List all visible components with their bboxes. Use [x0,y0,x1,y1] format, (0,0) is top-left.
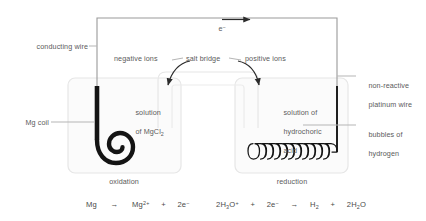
ox-product2-charge: − [186,200,189,206]
label-oxidation: oxidation [84,177,164,187]
red-plus2: + [330,200,335,209]
label-conducting-wire: conducting wire [4,42,88,52]
label-positive-ions: positive ions [245,54,286,64]
leader-salt-bridge-left [172,58,183,60]
red-r1-coeff: 2H [216,200,226,209]
red-r2-charge: − [276,200,279,206]
red-p2-coeff: 2H [347,200,357,209]
salt-bridge-tube-inner [172,85,244,128]
equation-oxidation: Mg → Mg2+ + 2e− [86,200,190,209]
label-mg-coil: Mg coil [4,118,49,128]
ox-product1: Mg [132,200,143,209]
electron-charge: − [223,24,226,30]
ox-arrow: → [111,200,119,209]
red-p2-element: O [360,200,366,209]
label-non-reactive-platinum-wire: non-reactive platinum wire [360,71,412,119]
non-reactive-line2: platinum wire [368,100,412,109]
label-bubbles-of-hydrogen: bubbles of hydrogen [360,120,403,168]
red-plus1: + [250,200,255,209]
leader-salt-bridge-right [229,58,241,60]
solution-left-line1: solution [135,108,161,117]
label-solution-left: solution of MgCl2 [127,98,164,148]
solution-left-line2: of MgCl [135,127,160,136]
solution-left-subscript: 2 [161,130,164,136]
label-solution-right: solution of hydrochoric acid [275,98,322,165]
red-arrow: → [291,200,299,209]
bubbles-line1: bubbles of [368,130,402,139]
red-r1-charge: + [235,200,238,206]
red-p1-subscript: 2 [316,204,319,210]
ox-product1-charge: 2+ [143,200,150,206]
label-electron: e− [210,13,226,43]
cell-diagram: conducting wire Mg coil negative ions sa… [0,0,426,221]
label-reduction: reduction [252,177,332,187]
bubbles-line2: hydrogen [368,149,399,158]
ox-product2: 2e [177,200,186,209]
label-salt-bridge: salt bridge [186,54,220,64]
ox-reactant: Mg [86,200,97,209]
solution-right-line1: solution of [283,108,317,117]
solution-right-line2: hydrochoric [283,127,321,136]
solution-right-line3: acid [283,146,297,155]
non-reactive-line1: non-reactive [368,81,409,90]
red-r2: 2e [267,200,276,209]
ox-plus: + [161,200,166,209]
equation-reduction: 2H3O+ + 2e− → H2 + 2H2O [216,200,366,210]
label-negative-ions: negative ions [114,54,158,64]
